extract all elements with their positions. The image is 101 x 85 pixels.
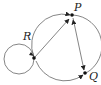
node-q — [83, 71, 87, 75]
edge-arc-r-to-q — [36, 61, 83, 81]
node-label-q: Q — [89, 71, 98, 82]
node-r — [32, 56, 36, 60]
edge-straight-p-to-q — [73, 18, 84, 70]
node-label-r: R — [23, 31, 31, 42]
edge-arc-r-to-p — [32, 14, 70, 57]
edge-straight-r-to-p — [35, 19, 69, 57]
node-label-p: P — [74, 2, 81, 13]
edge-arc-q-to-p — [73, 15, 101, 73]
graph-canvas — [0, 0, 101, 85]
edge-r-self-loop — [4, 44, 34, 74]
